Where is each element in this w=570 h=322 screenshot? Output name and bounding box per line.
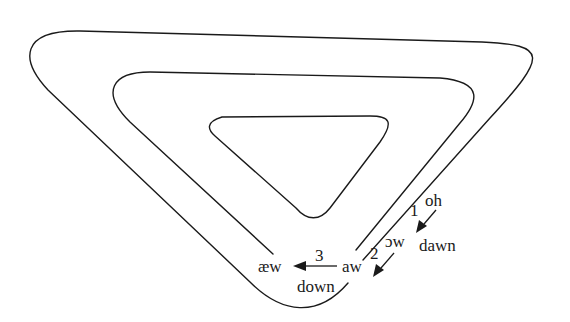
vowel-shift-diagram: 1 2 3 oh ɔw aw æw dawn down bbox=[0, 0, 570, 322]
label-dawn: dawn bbox=[419, 236, 456, 255]
label-open-o-w: ɔw bbox=[385, 232, 406, 251]
label-ae-w: æw bbox=[258, 257, 282, 276]
step-number-3: 3 bbox=[315, 246, 324, 265]
label-down: down bbox=[297, 277, 335, 296]
label-oh: oh bbox=[425, 191, 443, 210]
label-aw: aw bbox=[342, 257, 363, 276]
step-number-2: 2 bbox=[370, 244, 379, 263]
inner-loop bbox=[209, 116, 388, 218]
arrow-step-1 bbox=[416, 210, 436, 233]
step-number-1: 1 bbox=[410, 201, 419, 220]
